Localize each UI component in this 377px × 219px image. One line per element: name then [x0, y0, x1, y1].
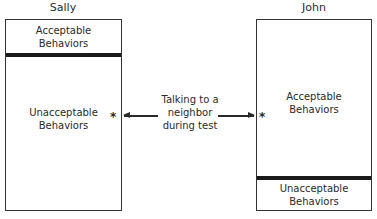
john-name: John: [256, 1, 372, 14]
john-unacceptable-label: Unacceptable Behaviors: [274, 182, 354, 208]
behavior-label: Talking to a neighbor during test: [150, 93, 230, 132]
behavior-label-line2: neighbor: [150, 106, 230, 119]
john-acceptable-section: Acceptable Behaviors: [257, 20, 371, 176]
sally-acceptable-label: Acceptable Behaviors: [29, 24, 99, 50]
sally-name: Sally: [5, 1, 121, 14]
behavior-label-line3: during test: [150, 119, 230, 132]
behavior-label-line1: Talking to a: [150, 93, 230, 106]
sally-unacceptable-section: Unacceptable Behaviors: [6, 57, 121, 210]
sally-box: Acceptable Behaviors Unacceptable Behavi…: [5, 19, 122, 211]
sally-acceptable-section: Acceptable Behaviors: [6, 20, 121, 53]
john-box: Acceptable Behaviors Unacceptable Behavi…: [256, 19, 372, 211]
john-marker: *: [259, 111, 265, 123]
john-acceptable-label: Acceptable Behaviors: [279, 90, 349, 116]
sally-marker: *: [110, 111, 116, 123]
sally-unacceptable-label: Unacceptable Behaviors: [24, 106, 104, 132]
john-unacceptable-section: Unacceptable Behaviors: [257, 180, 371, 210]
